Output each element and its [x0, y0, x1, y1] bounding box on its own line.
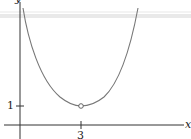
x-tick-label: 3: [77, 130, 84, 139]
x-axis-label: x: [185, 119, 191, 130]
y-tick-label: 1: [7, 100, 14, 111]
function-curve: [23, 8, 138, 106]
chart-plot: [0, 0, 191, 139]
open-circle-marker: [79, 104, 84, 109]
y-axis-label: y: [15, 0, 21, 4]
